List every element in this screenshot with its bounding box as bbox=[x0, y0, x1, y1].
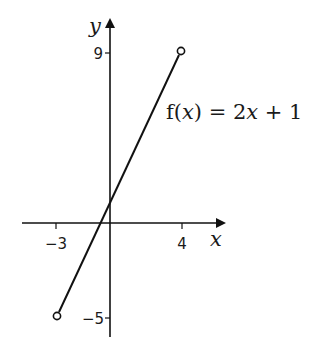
x-tick-label-4: 4 bbox=[177, 235, 187, 253]
y-axis-label: y bbox=[88, 14, 102, 38]
function-line bbox=[59, 55, 179, 312]
function-graph: −3 4 9 −5 x y f(x) = 2x + 1 bbox=[0, 0, 323, 342]
x-tick-label-neg3: −3 bbox=[45, 235, 67, 253]
open-endpoint-bottom bbox=[53, 312, 60, 319]
y-tick-label-neg5: −5 bbox=[82, 310, 104, 328]
function-label: f(x) = 2x + 1 bbox=[166, 100, 302, 124]
y-tick-label-9: 9 bbox=[93, 45, 103, 63]
open-endpoint-top bbox=[177, 47, 184, 54]
x-axis-label: x bbox=[210, 227, 222, 251]
